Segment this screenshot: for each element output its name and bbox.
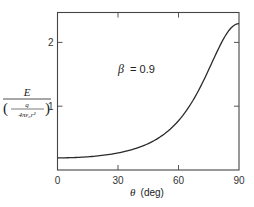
ylabel-inner-numerator: q — [25, 101, 29, 109]
unit-label: (deg) — [141, 187, 164, 198]
svg-text:): ) — [45, 100, 50, 117]
x-tick-label: 30 — [112, 175, 124, 186]
y-tick-label: 2 — [48, 37, 54, 48]
beta-annotation: β = 0.9 — [117, 62, 155, 76]
svg-text:θ (deg): θ (deg) — [130, 186, 164, 198]
x-tick-label: 90 — [233, 175, 245, 186]
x-tick-label: 0 — [55, 175, 61, 186]
data-line — [58, 24, 240, 158]
chart: 0306090 12 β = 0.9 θ (deg) E ( q 4πε₀r² … — [0, 0, 254, 207]
x-axis-label: θ (deg) — [130, 186, 164, 198]
theta-symbol: θ — [130, 186, 136, 198]
ylabel-inner-denominator: 4πε₀r² — [18, 111, 36, 119]
plot-frame — [58, 13, 240, 171]
y-axis-label: E ( q 4πε₀r² ) — [3, 86, 51, 119]
x-tick-label: 60 — [173, 175, 185, 186]
x-axis-ticks: 0306090 — [55, 13, 245, 187]
svg-text:(: ( — [3, 100, 8, 117]
ylabel-numerator: E — [23, 86, 31, 98]
